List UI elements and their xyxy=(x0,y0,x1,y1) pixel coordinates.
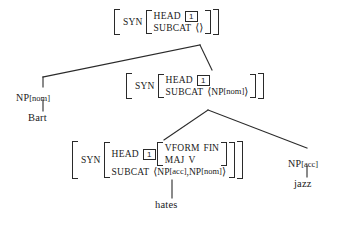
branch-root-to-vp xyxy=(200,45,212,70)
avm-outer-bracket-vp: SYN HEAD 1 SUBCAT ⟨ NP[nom] ⟩ xyxy=(126,73,264,99)
attr-subcat-verb: SUBCAT xyxy=(112,167,150,177)
avm-body-vp: SYN HEAD 1 SUBCAT ⟨ NP[nom] ⟩ xyxy=(134,73,256,99)
avm-rows-root: HEAD 1 SUBCAT ⟨ ⟩ xyxy=(154,10,204,34)
value-subcat-np-acc-feature-verb: [acc] xyxy=(170,167,187,176)
avm-rows-head-features-verb: VFORM FIN MAJ V xyxy=(165,142,219,166)
avm-outer-bracket-verb: SYN HEAD 1 VFORM FIN xyxy=(72,141,243,179)
angle-close-vp: ⟩ xyxy=(244,86,248,97)
bracket-left-outer-root xyxy=(114,9,120,35)
row-subcat-verb: SUBCAT ⟨ NP[acc], NP[nom] ⟩ xyxy=(112,166,227,178)
value-vform-verb: FIN xyxy=(204,143,219,153)
node-object-np: NP[acc] xyxy=(288,153,318,171)
tag-box-head-vp: 1 xyxy=(197,75,210,86)
angle-close-verb: ⟩ xyxy=(222,166,226,177)
attr-syn-verb: SYN xyxy=(80,155,104,165)
avm-rows-verb: HEAD 1 VFORM FIN MAJ xyxy=(112,142,227,178)
attr-head-root: HEAD xyxy=(154,11,181,21)
attr-subcat-root: SUBCAT xyxy=(154,23,192,33)
avm-inner-bracket-root: HEAD 1 SUBCAT ⟨ ⟩ xyxy=(146,10,212,34)
syntax-tree-diagram: SYN HEAD 1 SUBCAT ⟨ ⟩ xyxy=(0,0,352,229)
attr-syn-vp: SYN xyxy=(134,81,158,91)
value-subcat-np-acc-verb: NP xyxy=(157,167,169,177)
value-subcat-np-feature-vp: [nom] xyxy=(224,87,245,96)
branch-vp-to-verb xyxy=(164,110,208,140)
row-head-vp: HEAD 1 xyxy=(166,74,249,86)
bracket-left-inner-vp xyxy=(158,74,164,98)
label-subject-np-feature: [nom] xyxy=(29,93,50,103)
attr-head-vp: HEAD xyxy=(166,75,193,85)
attr-head-verb: HEAD xyxy=(112,149,139,159)
avm-rows-vp: HEAD 1 SUBCAT ⟨ NP[nom] ⟩ xyxy=(166,74,249,98)
value-subcat-np-nom-verb: NP xyxy=(189,167,201,177)
bracket-right-inner-root xyxy=(205,10,211,34)
row-subcat-root: SUBCAT ⟨ ⟩ xyxy=(154,22,204,34)
bracket-right-inner-vp xyxy=(250,74,256,98)
row-head-root: HEAD 1 xyxy=(154,10,204,22)
terminal-word-bart: Bart xyxy=(28,112,47,123)
attr-maj-verb: MAJ xyxy=(165,155,185,165)
node-subject-np: NP[nom] xyxy=(16,87,50,105)
row-head-verb: HEAD 1 VFORM FIN MAJ xyxy=(112,142,227,166)
avm-vp: SYN HEAD 1 SUBCAT ⟨ NP[nom] ⟩ xyxy=(126,73,264,103)
avm-verb: SYN HEAD 1 VFORM FIN xyxy=(72,141,243,183)
avm-root-s: SYN HEAD 1 SUBCAT ⟨ ⟩ xyxy=(114,9,219,39)
bracket-left-inner-root xyxy=(146,10,152,34)
label-object-np-feature: [acc] xyxy=(301,159,318,169)
attr-subcat-vp: SUBCAT xyxy=(166,87,204,97)
bracket-right-outer-root xyxy=(213,9,219,35)
bracket-left-outer-vp xyxy=(126,73,132,99)
tag-box-head-verb: 1 xyxy=(143,149,156,160)
row-vform-verb: VFORM FIN xyxy=(165,142,219,154)
value-subcat-np-nom-feature-verb: [nom] xyxy=(201,167,222,176)
bracket-left-head-features-verb xyxy=(157,142,163,166)
value-subcat-np-vp: NP xyxy=(211,87,223,97)
angle-close-root: ⟩ xyxy=(199,22,203,33)
bracket-right-outer-verb xyxy=(237,141,243,179)
avm-inner-bracket-vp: HEAD 1 SUBCAT ⟨ NP[nom] ⟩ xyxy=(158,74,257,98)
avm-body-verb: SYN HEAD 1 VFORM FIN xyxy=(80,141,235,179)
avm-head-features-verb: VFORM FIN MAJ V xyxy=(157,142,227,166)
row-maj-verb: MAJ V xyxy=(165,154,219,166)
terminal-word-jazz: jazz xyxy=(294,178,312,189)
label-subject-np-category: NP xyxy=(16,92,29,103)
bracket-left-inner-verb xyxy=(104,142,110,178)
attr-vform-verb: VFORM xyxy=(165,143,200,153)
avm-outer-bracket-root: SYN HEAD 1 SUBCAT ⟨ ⟩ xyxy=(114,9,219,35)
tag-box-head-root: 1 xyxy=(185,11,198,22)
avm-inner-bracket-verb: HEAD 1 VFORM FIN MAJ xyxy=(104,142,235,178)
terminal-word-hates: hates xyxy=(155,199,178,210)
avm-body-root: SYN HEAD 1 SUBCAT ⟨ ⟩ xyxy=(122,9,211,35)
bracket-right-head-features-verb xyxy=(221,142,227,166)
label-object-np-category: NP xyxy=(288,158,301,169)
attr-syn-root: SYN xyxy=(122,17,146,27)
bracket-right-inner-verb xyxy=(229,142,235,178)
bracket-left-outer-verb xyxy=(72,141,78,179)
bracket-right-outer-vp xyxy=(258,73,264,99)
value-maj-verb: V xyxy=(188,155,195,165)
row-subcat-vp: SUBCAT ⟨ NP[nom] ⟩ xyxy=(166,86,249,98)
